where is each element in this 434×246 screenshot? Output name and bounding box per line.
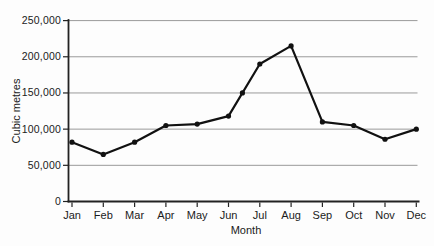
x-tick-label: Mar (118, 209, 152, 222)
x-tick-label: Feb (86, 209, 120, 222)
data-point-jan (69, 140, 74, 145)
x-tick-label: Dec (399, 209, 433, 222)
x-tick-label: Nov (368, 209, 402, 222)
data-point-oct (351, 123, 356, 128)
x-tick-label: Oct (337, 209, 371, 222)
x-axis-title: Month (213, 223, 279, 237)
data-point-may (195, 121, 200, 126)
extra-data-point (240, 90, 245, 95)
data-point-dec (414, 127, 419, 132)
x-tick-label: Sep (305, 209, 339, 222)
data-point-aug (289, 43, 294, 48)
y-axis-title: Cubic metres (9, 44, 23, 178)
x-tick-label: Jul (243, 209, 277, 222)
data-point-jun (226, 114, 231, 119)
data-point-jul (257, 61, 262, 66)
x-tick-label: Jun (212, 209, 246, 222)
x-tick-label: Aug (274, 209, 308, 222)
line-chart-figure: 050,000100,000150,000200,000250,000 JanF… (0, 0, 434, 246)
data-point-mar (132, 140, 137, 145)
y-tick-label: 250,000 (0, 14, 61, 27)
data-point-feb (101, 152, 106, 157)
x-tick-label: Jan (55, 209, 89, 222)
data-point-sep (320, 119, 325, 124)
x-tick-label: Apr (149, 209, 183, 222)
y-tick-label: 0 (0, 195, 61, 208)
series-line (72, 46, 416, 155)
x-tick-label: May (180, 209, 214, 222)
data-point-nov (382, 137, 387, 142)
data-point-apr (163, 123, 168, 128)
